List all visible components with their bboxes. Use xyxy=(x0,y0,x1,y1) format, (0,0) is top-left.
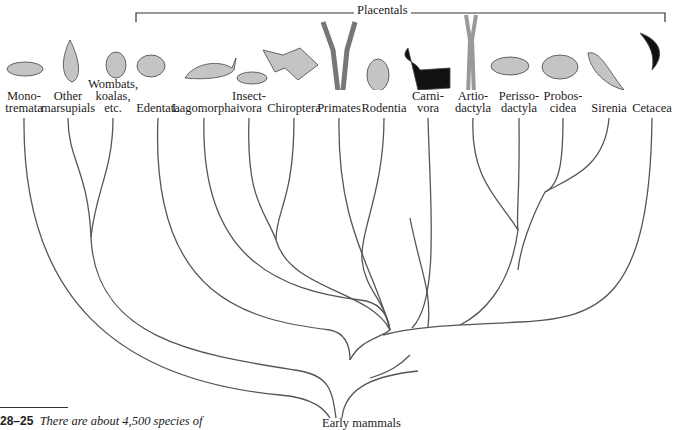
taxon-label: Primates xyxy=(317,102,361,114)
branch-other-marsupials xyxy=(68,118,91,237)
rabbit-icon xyxy=(185,58,236,79)
gibbon-icon xyxy=(323,22,355,90)
taxon-label: Probos-cidea xyxy=(544,90,583,114)
branch-carnivora-extinct xyxy=(410,218,429,327)
taxon-label: Othermarsupials xyxy=(41,90,95,114)
manatee-icon xyxy=(588,53,624,90)
root-label: Early mammals xyxy=(322,416,401,430)
taxon-label: Mono-tremata xyxy=(5,90,42,114)
branch-marsupial-stem xyxy=(91,237,336,418)
taxon-label: Chiroptera xyxy=(267,102,320,114)
bat-icon xyxy=(263,48,318,80)
taxon-label: Wombats,koalas,etc. xyxy=(88,78,138,114)
taxon-label: Sirenia xyxy=(591,102,626,114)
taxon-label: Cetacea xyxy=(632,102,672,114)
beaver-icon xyxy=(367,59,389,90)
caption-text: There are about 4,500 species of xyxy=(40,414,203,428)
branch-carnivora xyxy=(412,118,431,328)
caption-rule xyxy=(0,407,68,408)
figure-caption: 28–25 There are about 4,500 species of xyxy=(0,414,203,429)
mole-icon xyxy=(237,72,267,84)
branch-bats-insectivores-stem xyxy=(276,240,390,330)
taxon-label: Carni-vora xyxy=(412,90,444,114)
platypus-icon xyxy=(7,62,43,76)
branch-ungulates xyxy=(460,230,518,325)
branch-insectivora xyxy=(249,118,276,240)
branch-perissodactyla xyxy=(517,118,519,230)
branch-artiodactyla xyxy=(473,118,518,230)
taxon-label: Perisso-dactyla xyxy=(499,90,539,114)
branch-chiroptera xyxy=(276,118,294,240)
rhinoceros-icon xyxy=(491,57,529,75)
dolphin-icon xyxy=(640,33,660,70)
branch-paenungulates xyxy=(518,192,545,270)
branch-proboscidea xyxy=(545,118,563,192)
branch-rodentia xyxy=(362,118,390,330)
branch-lagomorpha xyxy=(204,118,390,330)
branch-wombats xyxy=(91,118,113,237)
figure-number: 28–25 xyxy=(0,414,33,428)
armadillo-icon xyxy=(137,55,165,77)
branch-sirenia xyxy=(545,118,609,192)
branch-extinct-early xyxy=(342,371,418,418)
opossum-icon xyxy=(63,40,78,82)
branch-monotremata xyxy=(24,118,330,418)
antelope-icon xyxy=(466,15,476,90)
taxon-label: Artio-dactyla xyxy=(455,90,491,114)
elephant-icon xyxy=(542,55,578,79)
taxon-label: Lagomorpha xyxy=(172,102,236,114)
skunk-icon xyxy=(405,48,450,90)
taxon-label: Rodentia xyxy=(361,102,406,114)
koala-icon xyxy=(106,52,126,78)
branch-edentata xyxy=(158,118,350,360)
taxon-label: Insect-ivora xyxy=(232,90,266,114)
branch-extinct-early-2 xyxy=(370,355,410,378)
